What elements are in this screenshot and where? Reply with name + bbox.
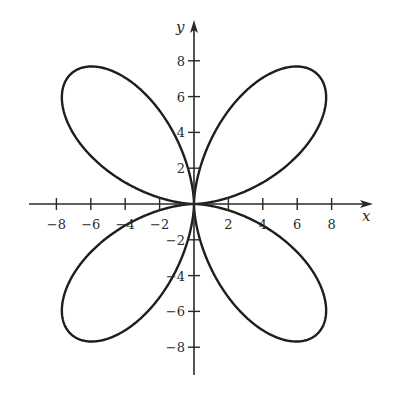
polar-rose-chart: −8−6−4−22468 −8−6−4−22468 x y: [0, 0, 393, 396]
y-tick-label: −4: [166, 269, 185, 284]
x-tick-label: 4: [259, 217, 267, 232]
x-tick-label: −4: [116, 217, 135, 232]
y-tick-label: 8: [177, 54, 185, 69]
y-tick-label: −2: [166, 233, 185, 248]
x-tick-label: 8: [327, 217, 335, 232]
x-tick-label: −8: [47, 217, 66, 232]
axes: −8−6−4−22468 −8−6−4−22468 x y: [29, 18, 373, 375]
y-tick-label: −6: [166, 304, 185, 319]
x-tick-label: −6: [81, 217, 100, 232]
y-axis-label: y: [175, 18, 185, 36]
y-tick-label: 6: [177, 90, 185, 105]
x-tick-label: 2: [224, 217, 232, 232]
x-axis-label: x: [362, 207, 371, 225]
y-tick-label: 4: [177, 125, 185, 140]
y-tick-label: −8: [166, 340, 185, 355]
x-tick-label: 6: [293, 217, 301, 232]
y-tick-label: 2: [177, 161, 185, 176]
x-tick-label: −2: [150, 217, 169, 232]
